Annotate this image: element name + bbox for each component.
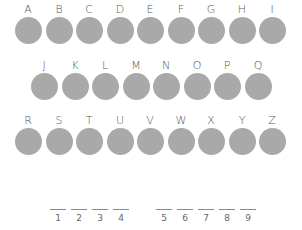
letter-tile-r[interactable]: R — [14, 115, 42, 155]
letter-tile-k[interactable]: K — [61, 60, 89, 100]
letter-tile-y[interactable]: Y — [228, 115, 256, 155]
letter-tile-b[interactable]: B — [45, 4, 73, 44]
circle-icon — [259, 17, 286, 44]
tile-label: Z — [258, 115, 286, 127]
slot-number: 6 — [177, 213, 193, 223]
letter-tile-s[interactable]: S — [45, 115, 73, 155]
letter-tile-u[interactable]: U — [106, 115, 134, 155]
answer-slot-9[interactable]: 9 — [240, 209, 256, 223]
letter-tile-j[interactable]: J — [30, 60, 58, 100]
circle-icon — [123, 73, 150, 100]
letter-tile-q[interactable]: Q — [244, 60, 272, 100]
tile-label: H — [228, 4, 256, 16]
slot-number: 1 — [50, 213, 66, 223]
answer-slot-5[interactable]: 5 — [156, 209, 172, 223]
circle-icon — [107, 17, 134, 44]
tile-label: S — [45, 115, 73, 127]
tile-label: A — [14, 4, 42, 16]
tile-label: O — [183, 60, 211, 72]
tile-label: V — [136, 115, 164, 127]
circle-icon — [76, 128, 103, 155]
blank-line — [92, 209, 108, 210]
circle-icon — [15, 128, 42, 155]
letter-tile-e[interactable]: E — [136, 4, 164, 44]
tile-label: E — [136, 4, 164, 16]
tile-label: T — [75, 115, 103, 127]
slot-number: 8 — [219, 213, 235, 223]
circle-icon — [107, 128, 134, 155]
letter-tile-n[interactable]: N — [152, 60, 180, 100]
answer-slot-7[interactable]: 7 — [198, 209, 214, 223]
circle-icon — [168, 17, 195, 44]
tile-label: Q — [244, 60, 272, 72]
tile-label: C — [75, 4, 103, 16]
letter-tile-c[interactable]: C — [75, 4, 103, 44]
letter-tile-d[interactable]: D — [106, 4, 134, 44]
answer-slot-8[interactable]: 8 — [219, 209, 235, 223]
circle-icon — [229, 17, 256, 44]
tile-label: W — [167, 115, 195, 127]
answer-slot-6[interactable]: 6 — [177, 209, 193, 223]
slot-number: 2 — [71, 213, 87, 223]
tile-label: K — [61, 60, 89, 72]
circle-icon — [259, 128, 286, 155]
circle-icon — [31, 73, 58, 100]
letter-tile-i[interactable]: I — [258, 4, 286, 44]
letter-tile-p[interactable]: P — [213, 60, 241, 100]
circle-icon — [198, 128, 225, 155]
circle-icon — [15, 17, 42, 44]
tile-label: B — [45, 4, 73, 16]
tile-label: U — [106, 115, 134, 127]
circle-icon — [76, 17, 103, 44]
blank-line — [219, 209, 235, 210]
circle-icon — [184, 73, 211, 100]
blank-line — [50, 209, 66, 210]
slot-number: 7 — [198, 213, 214, 223]
answer-slot-3[interactable]: 3 — [92, 209, 108, 223]
tile-label: M — [122, 60, 150, 72]
answer-slot-4[interactable]: 4 — [113, 209, 129, 223]
circle-icon — [62, 73, 89, 100]
blank-line — [156, 209, 172, 210]
letter-tile-l[interactable]: L — [91, 60, 119, 100]
tile-label: R — [14, 115, 42, 127]
circle-icon — [229, 128, 256, 155]
letter-tile-h[interactable]: H — [228, 4, 256, 44]
letter-tile-v[interactable]: V — [136, 115, 164, 155]
blank-line — [113, 209, 129, 210]
tile-label: I — [258, 4, 286, 16]
tile-label: F — [167, 4, 195, 16]
tile-label: X — [197, 115, 225, 127]
answer-slot-1[interactable]: 1 — [50, 209, 66, 223]
letter-tile-f[interactable]: F — [167, 4, 195, 44]
circle-icon — [198, 17, 225, 44]
circle-icon — [214, 73, 241, 100]
slot-number: 4 — [113, 213, 129, 223]
circle-icon — [245, 73, 272, 100]
tile-label: D — [106, 4, 134, 16]
slot-number: 3 — [92, 213, 108, 223]
circle-icon — [153, 73, 180, 100]
blank-line — [198, 209, 214, 210]
circle-icon — [46, 128, 73, 155]
circle-icon — [46, 17, 73, 44]
tile-label: G — [197, 4, 225, 16]
blank-line — [177, 209, 193, 210]
letter-tile-g[interactable]: G — [197, 4, 225, 44]
circle-icon — [168, 128, 195, 155]
letter-tile-w[interactable]: W — [167, 115, 195, 155]
tile-label: P — [213, 60, 241, 72]
slot-number: 5 — [156, 213, 172, 223]
letter-tile-o[interactable]: O — [183, 60, 211, 100]
letter-tile-z[interactable]: Z — [258, 115, 286, 155]
letter-tile-x[interactable]: X — [197, 115, 225, 155]
blank-line — [240, 209, 256, 210]
letter-tile-t[interactable]: T — [75, 115, 103, 155]
letter-tile-a[interactable]: A — [14, 4, 42, 44]
tile-label: N — [152, 60, 180, 72]
letter-tile-m[interactable]: M — [122, 60, 150, 100]
blank-line — [71, 209, 87, 210]
answer-slot-2[interactable]: 2 — [71, 209, 87, 223]
circle-icon — [137, 128, 164, 155]
tile-label: L — [91, 60, 119, 72]
